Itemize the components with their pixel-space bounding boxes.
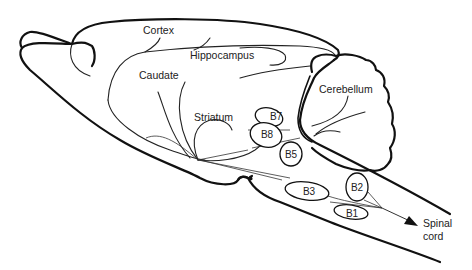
brain-diagram: [0, 0, 472, 270]
caudate-fiber-1: [158, 92, 190, 158]
cerebellum-outline: [311, 54, 395, 170]
label-cord: cord: [423, 231, 443, 242]
frontal-sulcus: [71, 44, 90, 76]
hippocampus-lower: [240, 66, 310, 78]
cortex-pointer: [145, 38, 160, 52]
label-b7: B7: [270, 112, 282, 122]
label-spinal: Spinal: [423, 218, 452, 229]
lower-cerebrum-boundary: [108, 100, 205, 160]
cerebellum-fiber-1: [312, 96, 348, 126]
label-b3: B3: [303, 187, 315, 197]
spinal-arrow-head: [404, 216, 418, 226]
label-hippocampus: Hippocampus: [190, 50, 254, 61]
label-cortex: Cortex: [143, 25, 174, 36]
cerebellum-fiber-3: [314, 131, 340, 136]
label-caudate: Caudate: [139, 70, 179, 81]
label-b1: B1: [346, 209, 358, 219]
fiber-bundle-2: [198, 150, 248, 160]
label-b8: B8: [261, 130, 273, 140]
label-b2: B2: [351, 183, 363, 193]
label-cerebellum: Cerebellum: [319, 84, 373, 95]
label-b5: B5: [285, 150, 297, 160]
label-striatum: Striatum: [194, 112, 233, 123]
